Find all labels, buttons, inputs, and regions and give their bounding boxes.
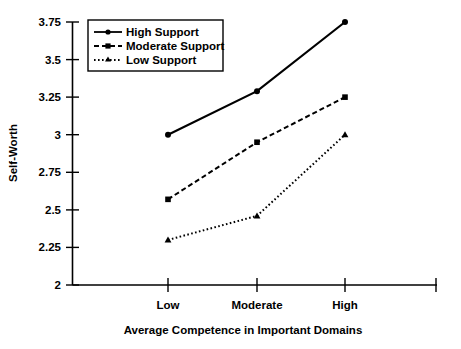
series-line-moderate-support [168,97,345,199]
data-point-low-support-moderate [254,212,261,218]
series-low-support [165,131,349,242]
y-tick-label-3.25: 3.25 [39,91,62,103]
y-axis: 3.75 3.5 3.25 3 2.75 2.5 2.25 2 Self-Wor… [7,16,79,291]
self-worth-line-chart: 3.75 3.5 3.25 3 2.75 2.5 2.25 2 Self-Wor… [0,0,461,349]
data-point-moderate-support-high [342,94,348,100]
data-point-high-support-low [165,132,171,138]
x-tick-label-moderate: Moderate [231,299,282,311]
data-point-high-support-high [342,19,348,25]
data-point-low-support-high [342,131,349,137]
y-tick-label-2.75: 2.75 [39,166,62,178]
chart-container: 3.75 3.5 3.25 3 2.75 2.5 2.25 2 Self-Wor… [0,0,461,349]
legend-marker-circle-icon [105,29,110,34]
y-tick-label-3.75: 3.75 [39,16,62,28]
data-point-moderate-support-moderate [254,139,260,145]
data-point-moderate-support-low [165,197,171,203]
x-axis: Low Moderate High Average Competence in … [73,278,438,336]
x-tick-label-high: High [332,299,358,311]
x-tick-label-low: Low [157,299,180,311]
x-axis-title: Average Competence in Important Domains [124,324,363,336]
legend-label-moderate-support: Moderate Support [126,40,225,52]
y-tick-label-2.25: 2.25 [39,241,62,253]
series-moderate-support [165,94,348,202]
y-tick-label-3: 3 [55,129,61,141]
data-point-low-support-low [165,237,172,243]
y-axis-title: Self-Worth [7,124,19,182]
data-point-high-support-moderate [254,88,260,94]
legend-marker-square-icon [105,43,110,48]
y-tick-label-2.5: 2.5 [45,204,62,216]
legend-label-high-support: High Support [126,26,199,38]
legend-label-low-support: Low Support [126,54,196,66]
series-line-low-support [168,135,345,240]
y-tick-label-3.5: 3.5 [45,54,62,66]
legend: High Support Moderate Support Low Suppor… [88,20,225,71]
y-tick-label-2: 2 [55,279,61,291]
